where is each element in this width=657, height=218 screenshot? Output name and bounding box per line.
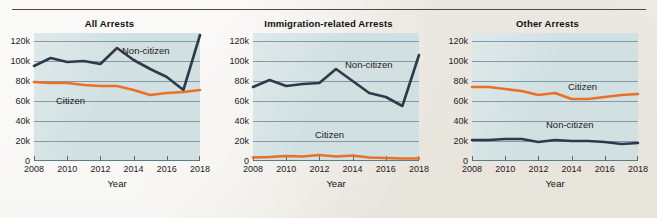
series-annotation-citizen: Citizen [568, 81, 597, 92]
y-axis-tick-label: 100k [448, 56, 468, 66]
x-axis-tick-label: 2012 [528, 164, 548, 174]
y-axis-tick-label: 20k [453, 136, 468, 146]
x-axis-tick-label: 2016 [595, 164, 615, 174]
y-axis-tick-label: 80k [453, 76, 468, 86]
x-axis-tick-label: 2010 [57, 164, 77, 174]
x-axis-tick-label: 2014 [124, 164, 144, 174]
small-multiples-panel-group: All Arrests020k40k60k80k100k120k20082010… [0, 18, 657, 218]
y-axis-tick-label: 40k [234, 116, 249, 126]
series-line-non-citizen [472, 139, 638, 144]
x-axis-tick-label: 2010 [495, 164, 515, 174]
x-axis-tick-label: 2018 [628, 164, 648, 174]
chart-panel: Other Arrests020k40k60k80k100k120k200820… [438, 18, 657, 218]
y-axis-tick-label: 40k [15, 116, 30, 126]
y-axis-tick-label: 100k [229, 56, 249, 66]
y-axis-tick-label: 60k [15, 96, 30, 106]
y-axis-tick-label: 80k [15, 76, 30, 86]
chart-panel: Immigration-related Arrests020k40k60k80k… [219, 18, 438, 218]
x-axis-tick-label: 2016 [376, 164, 396, 174]
x-axis-tick-label: 2016 [157, 164, 177, 174]
x-axis-tick-label: 2010 [276, 164, 296, 174]
x-axis-title: Year [472, 178, 638, 189]
x-axis-tick-label: 2012 [90, 164, 110, 174]
y-axis-tick-label: 80k [234, 76, 249, 86]
y-axis-tick-label: 60k [234, 96, 249, 106]
figure-root: All Arrests020k40k60k80k100k120k20082010… [0, 0, 657, 218]
panel-title: All Arrests [0, 18, 219, 29]
series-layer [253, 33, 419, 161]
x-axis-tick-label: 2008 [24, 164, 44, 174]
y-axis-tick-label: 40k [453, 116, 468, 126]
x-axis-tick-label: 2018 [190, 164, 210, 174]
y-axis-tick-label: 120k [10, 36, 30, 46]
series-annotation-citizen: Citizen [56, 95, 85, 106]
series-annotation-non-citizen: Non-citizen [546, 119, 594, 130]
series-line-citizen [472, 87, 638, 99]
x-axis-title: Year [34, 178, 200, 189]
y-axis-tick-label: 60k [453, 96, 468, 106]
x-axis-title: Year [253, 178, 419, 189]
series-layer [472, 33, 638, 161]
plot-area: 020k40k60k80k100k120k2008201020122014201… [472, 33, 638, 161]
plot-area: 020k40k60k80k100k120k2008201020122014201… [34, 33, 200, 161]
top-horizontal-rule [12, 9, 646, 10]
chart-panel: All Arrests020k40k60k80k100k120k20082010… [0, 18, 219, 218]
x-axis-tick-label: 2012 [309, 164, 329, 174]
series-annotation-citizen: Citizen [315, 129, 344, 140]
x-axis-tick-label: 2008 [243, 164, 263, 174]
series-annotation-non-citizen: Non-citizen [122, 45, 170, 56]
y-axis-tick-label: 100k [10, 56, 30, 66]
y-axis-tick-label: 120k [229, 36, 249, 46]
x-axis-tick-label: 2008 [462, 164, 482, 174]
series-line-non-citizen [253, 55, 419, 106]
x-axis-tick-label: 2014 [343, 164, 363, 174]
x-axis-tick-label: 2014 [562, 164, 582, 174]
series-line-citizen [253, 155, 419, 159]
y-axis-tick-label: 120k [448, 36, 468, 46]
y-axis-tick-label: 20k [234, 136, 249, 146]
series-annotation-non-citizen: Non-citizen [345, 59, 393, 70]
plot-area: 020k40k60k80k100k120k2008201020122014201… [253, 33, 419, 161]
y-axis-tick-label: 20k [15, 136, 30, 146]
panel-title: Other Arrests [438, 18, 657, 29]
x-axis-tick-label: 2018 [409, 164, 429, 174]
panel-title: Immigration-related Arrests [219, 18, 438, 29]
